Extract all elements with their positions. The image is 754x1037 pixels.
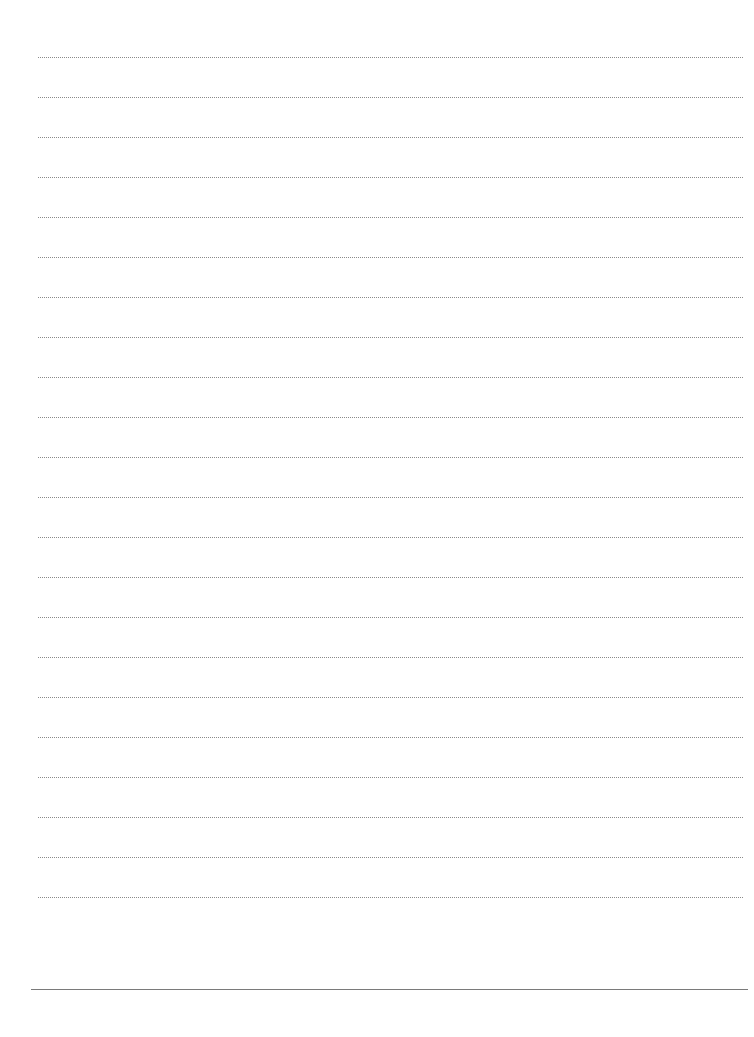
ruled-line <box>38 857 743 858</box>
ruled-line <box>38 497 743 498</box>
ruled-line <box>38 577 743 578</box>
ruled-line <box>38 457 743 458</box>
footer-line <box>31 989 748 990</box>
ruled-line <box>38 297 743 298</box>
lined-page <box>0 0 754 1037</box>
ruled-line <box>38 617 743 618</box>
ruled-line <box>38 377 743 378</box>
ruled-line <box>38 817 743 818</box>
ruled-line <box>38 537 743 538</box>
ruled-line <box>38 337 743 338</box>
ruled-line <box>38 697 743 698</box>
ruled-line <box>38 777 743 778</box>
ruled-line <box>38 657 743 658</box>
ruled-line <box>38 57 743 58</box>
ruled-line <box>38 897 743 898</box>
ruled-line <box>38 177 743 178</box>
ruled-line <box>38 217 743 218</box>
ruled-line <box>38 737 743 738</box>
ruled-line <box>38 137 743 138</box>
ruled-line <box>38 257 743 258</box>
ruled-line <box>38 417 743 418</box>
ruled-line <box>38 97 743 98</box>
